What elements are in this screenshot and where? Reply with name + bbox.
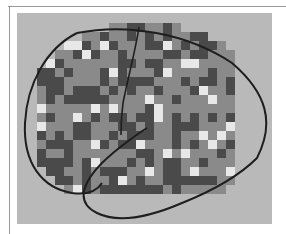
brain-map-image bbox=[17, 13, 272, 224]
frame-left-border bbox=[9, 6, 10, 234]
brain-outline bbox=[17, 13, 272, 224]
frame-top-border bbox=[8, 6, 286, 7]
